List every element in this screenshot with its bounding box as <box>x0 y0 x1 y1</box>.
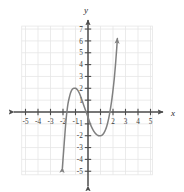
x-tick-label: -3 <box>48 118 54 126</box>
y-tick-label: 4 <box>79 61 83 69</box>
y-tick-label: 7 <box>79 26 83 34</box>
y-tick-label: -1 <box>77 120 83 128</box>
y-tick-label: 5 <box>79 49 83 57</box>
x-tick-label: 4 <box>136 118 140 126</box>
graph-figure: -5-4-3-2-1123457654321-1-2-3-4-5 x y <box>0 0 184 192</box>
curve-series <box>62 39 117 168</box>
y-tick-label: 6 <box>79 38 83 46</box>
cubic-curve <box>62 39 117 168</box>
y-axis-label: y <box>83 5 88 15</box>
y-tick-label: 3 <box>79 73 83 81</box>
y-tick-label: -3 <box>77 144 83 152</box>
axes <box>14 20 163 186</box>
x-tick-label: -4 <box>35 118 41 126</box>
x-tick-label: -5 <box>23 118 29 126</box>
x-tick-label: 1 <box>99 118 103 126</box>
y-tick-label: -2 <box>77 132 83 140</box>
y-tick-label: 2 <box>79 85 83 93</box>
y-tick-label: -5 <box>77 168 83 176</box>
cubic-function-plot: -5-4-3-2-1123457654321-1-2-3-4-5 x y <box>0 0 184 192</box>
x-tick-label: 2 <box>111 118 115 126</box>
x-tick-label: 5 <box>149 118 153 126</box>
x-tick-label: 3 <box>124 118 128 126</box>
y-tick-label: -4 <box>77 156 83 164</box>
x-axis-label: x <box>170 108 175 118</box>
